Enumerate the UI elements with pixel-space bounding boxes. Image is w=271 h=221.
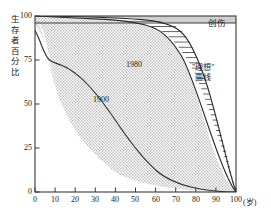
annotation-ideal-line1: "理想" [192,63,215,73]
y-tick-label-0: 0 [12,188,32,196]
y-tick-label-25: 25 [12,144,32,152]
x-tick-label-50: 50 [127,196,143,204]
x-axis-unit-label: (岁) [243,196,256,207]
x-tick-label-90: 90 [208,196,224,204]
y-axis-ticks [35,16,40,192]
y-tick-label-75: 75 [12,56,32,64]
x-tick-label-30: 30 [87,196,103,204]
x-tick-label-10: 10 [47,196,63,204]
x-tick-label-20: 20 [67,196,83,204]
x-tick-label-70: 70 [168,196,184,204]
x-tick-label-0: 0 [27,196,43,204]
y-axis-title: 生存者百分比 [10,14,21,77]
survival-curve-chart: 生存者百分比 100 75 50 25 0 0 10 20 30 40 50 6… [0,0,271,221]
survival-gap-shaded-region-main [35,16,236,192]
y-tick-label-50: 50 [12,100,32,108]
annotation-trauma: 创伤 [208,16,226,28]
annotation-ideal-curve: "理想" 曲线 [192,63,215,82]
annotation-ideal-line2: 曲线 [192,73,215,83]
y-tick-label-100: 100 [12,12,32,20]
annotation-1900: 1900 [93,95,109,105]
chart-plot-area [0,0,271,221]
x-tick-label-60: 60 [148,196,164,204]
annotation-1980: 1980 [126,60,142,70]
x-tick-label-80: 80 [188,196,204,204]
x-tick-label-40: 40 [107,196,123,204]
